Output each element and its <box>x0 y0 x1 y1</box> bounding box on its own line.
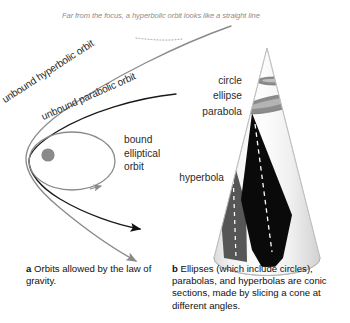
caption-b-letter: b <box>172 263 178 274</box>
figure-root: Far from the focus, a hyperbolic orbit l… <box>0 0 350 323</box>
label-bound-elliptical-orbit: bound elliptical orbit <box>124 133 160 174</box>
caption-b: b Ellipses (which include circles), para… <box>172 263 344 312</box>
annotation-leader-line <box>136 38 182 40</box>
label-circle: circle <box>150 75 242 86</box>
label-hyperbola: hyperbola <box>120 172 224 183</box>
bound-elliptical-orbit <box>29 132 115 190</box>
circle-slice-highlight <box>262 79 286 83</box>
label-parabola: parabola <box>130 106 242 117</box>
hyperbolic-straight-line-annotation: Far from the focus, a hyperbolic orbit l… <box>62 11 232 22</box>
caption-a: a Orbits allowed by the law of gravity. <box>26 263 166 287</box>
focus-star <box>41 148 54 161</box>
caption-a-text: Orbits allowed by the law of gravity. <box>26 263 151 286</box>
label-ellipse: ellipse <box>150 90 242 101</box>
caption-b-text: Ellipses (which include circles), parabo… <box>172 263 327 311</box>
caption-a-letter: a <box>26 263 31 274</box>
